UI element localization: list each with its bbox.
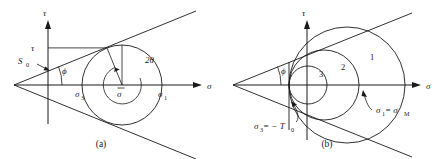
panel-a-tau-tick-label: τ (31, 43, 35, 53)
panel-b-phi-label: ϕ (281, 66, 286, 76)
panel-a-sigma-mean-label-main: σ (117, 89, 122, 99)
panel-b-sigma3-leader-line (293, 104, 298, 122)
panel-b-sigma3-cutoff-label-rest: = − T (263, 121, 286, 131)
panel-b-sigma1-max-label: σ 1 = σ M (376, 105, 410, 117)
panel-b-sigma1-leader-arrowhead (362, 90, 368, 97)
panel-a-sigma3-label-subscript: 3 (81, 94, 84, 101)
panel-a-cohesion-label-main: S (18, 56, 23, 66)
panel-b-sigma1-max-label-subscript-2: M (404, 110, 410, 117)
panel-b-circle-label-3: 3 (319, 69, 323, 79)
figure-canvas: σ τ τ S 0 ϕ 2θ σ 3 σ σ (0, 0, 438, 159)
panel-a-sigma-mean-label: σ (117, 88, 125, 99)
panel-a: σ τ τ S 0 ϕ 2θ σ 3 σ σ (14, 8, 212, 159)
panel-a-sigma1-label-subscript: 1 (164, 94, 167, 101)
panel-b-caption: (b) (321, 139, 332, 150)
panel-a-sigma3-label-main: σ (75, 89, 80, 99)
panel-b-sigma1-max-label-mid: = σ (385, 105, 398, 115)
panel-b-sigma-axis-arrowhead (412, 82, 421, 88)
panel-a-two-theta-arrowhead (114, 67, 120, 72)
panel-b-sigma-axis-label: σ (426, 81, 431, 91)
panel-a-radius-to-tangent-point (107, 48, 122, 85)
panel-a-phi-label: ϕ (62, 66, 67, 76)
panel-a-caption: (a) (96, 139, 107, 150)
panel-b-sigma3-cutoff-label-main: σ (254, 121, 259, 131)
panel-a-cohesion-label: S 0 (18, 56, 29, 68)
mohr-circle-failure-envelope-figure: σ τ τ S 0 ϕ 2θ σ 3 σ σ (0, 0, 438, 159)
panel-a-tau-axis-arrowhead (45, 20, 51, 29)
panel-b-sigma1-max-label-main: σ (376, 105, 381, 115)
panel-a-s0-leader-arrowhead (44, 66, 51, 70)
panel-a-sigma-axis-arrowhead (193, 82, 202, 88)
panel-a-tau-axis-label: τ (43, 8, 47, 18)
panel-b-tau-axis-arrowhead (304, 20, 310, 29)
panel-a-sigma1-label-main: σ (158, 89, 163, 99)
panel-b-circle-label-1: 1 (370, 52, 374, 62)
panel-a-two-theta-label: 2θ (145, 55, 155, 65)
panel-b-circle-label-2: 2 (341, 62, 345, 72)
panel-a-cohesion-label-subscript: 0 (26, 61, 29, 68)
panel-b-sigma3-cutoff-label: σ 3 = − T 0 (254, 121, 294, 133)
panel-b-tau-axis-label: τ (302, 8, 306, 18)
panel-b-sigma3-cutoff-label-rest-subscript: 0 (291, 126, 294, 133)
panel-a-sigma-axis-label: σ (207, 81, 212, 91)
panel-b: ϕ 1 2 3 σ τ σ 3 = − T 0 σ (233, 8, 431, 157)
